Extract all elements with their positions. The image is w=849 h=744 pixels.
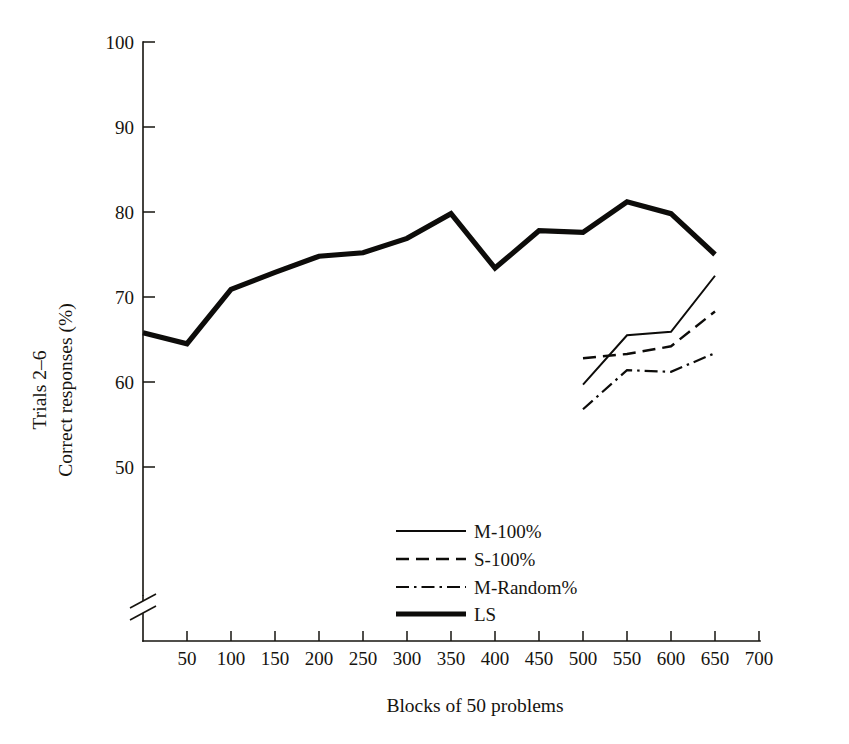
x-tick-label-200: 200 — [305, 648, 334, 669]
x-tick-label-100: 100 — [217, 648, 246, 669]
x-tick-label-250: 250 — [349, 648, 378, 669]
x-tick-label-550: 550 — [613, 648, 642, 669]
y-tick-label-100: 100 — [106, 32, 135, 53]
series-line-s-100 — [583, 311, 715, 358]
legend-label-ls: LS — [474, 604, 496, 625]
series-group — [143, 202, 715, 409]
legend-label-m-random: M-Random% — [474, 577, 578, 598]
series-line-ls — [143, 202, 715, 344]
y-tick-label-90: 90 — [115, 117, 134, 138]
line-chart: 100 90 80 70 60 50 50 100 150 2 — [0, 0, 849, 744]
x-tick-label-650: 650 — [701, 648, 730, 669]
x-tick-label-350: 350 — [437, 648, 466, 669]
x-tick-label-150: 150 — [261, 648, 290, 669]
legend-label-m-100: M-100% — [474, 521, 542, 542]
y-tick-label-80: 80 — [115, 202, 134, 223]
x-axis-title: Blocks of 50 problems — [386, 695, 563, 716]
y-axis-title-line2: Correct responses (%) — [55, 303, 77, 476]
legend-label-s-100: S-100% — [474, 549, 535, 570]
y-tick-group: 100 90 80 70 60 50 — [106, 32, 156, 478]
y-tick-label-60: 60 — [115, 372, 134, 393]
y-tick-label-50: 50 — [115, 457, 134, 478]
series-line-m-100 — [583, 276, 715, 385]
x-tick-label-450: 450 — [525, 648, 554, 669]
x-tick-label-500: 500 — [569, 648, 598, 669]
figure-container: 100 90 80 70 60 50 50 100 150 2 — [0, 0, 849, 744]
y-tick-label-70: 70 — [115, 287, 134, 308]
x-tick-label-400: 400 — [481, 648, 510, 669]
legend: M-100% S-100% M-Random% LS — [396, 521, 578, 625]
y-axis-title-line1: Trials 2–6 — [29, 350, 50, 429]
x-tick-label-300: 300 — [393, 648, 422, 669]
x-tick-label-600: 600 — [657, 648, 686, 669]
x-tick-label-700: 700 — [745, 648, 774, 669]
x-tick-group: 50 100 150 200 250 300 350 400 450 500 5… — [178, 631, 774, 669]
x-tick-label-50: 50 — [178, 648, 197, 669]
